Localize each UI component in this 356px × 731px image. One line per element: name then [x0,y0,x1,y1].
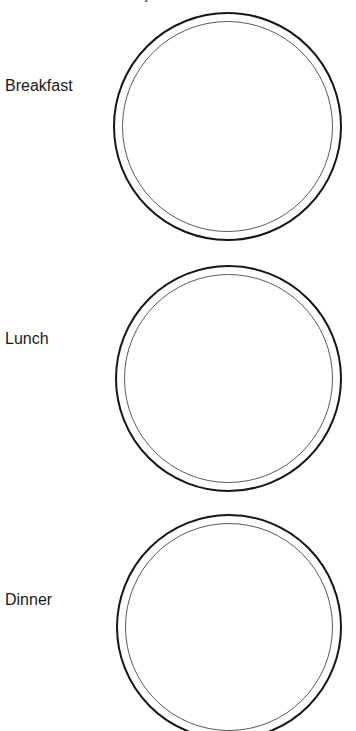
meal-plate-worksheet: My Meal Plate Breakfast Lunch Dinner [0,0,356,731]
meal-row-breakfast: Breakfast [0,0,356,250]
meal-row-dinner: Dinner [0,503,356,731]
plate-inner-ring-icon [124,274,333,483]
dinner-plate[interactable] [116,514,342,731]
plate-inner-ring-icon [122,21,333,232]
meal-row-lunch: Lunch [0,252,356,502]
meal-label-lunch: Lunch [5,329,49,348]
breakfast-plate[interactable] [113,12,342,241]
meal-label-dinner: Dinner [5,590,52,609]
lunch-plate[interactable] [115,265,342,492]
plate-inner-ring-icon [125,523,333,731]
meal-label-breakfast: Breakfast [5,76,73,95]
